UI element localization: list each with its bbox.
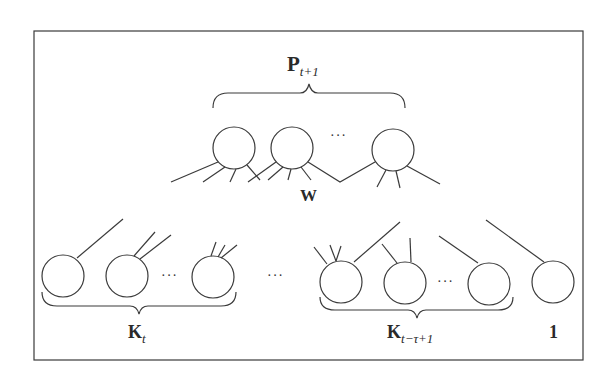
top-ellipsis: ··· [330,128,347,144]
top-node-3 [372,129,414,171]
top-nodes [213,127,414,171]
top-group-label: Pt+1 [287,52,319,77]
bottom-left-connections [77,219,237,259]
bias-label: 1 [549,322,558,343]
bottom-right-nodes [320,261,510,305]
top-group-brace [213,84,405,108]
bias-connection [486,220,544,262]
bias-node [532,261,574,303]
top-node-2 [271,127,313,169]
bottom-left-nodes [42,255,234,298]
middle-ellipsis: ··· [267,268,284,284]
right-group-label: Kt−τ+1 [387,322,433,343]
left-ellipsis: ··· [161,268,178,284]
weights-label: W [300,186,317,206]
bottom-right-connections [314,222,478,264]
left-group-label: Kt [128,322,146,343]
right-ellipsis: ··· [437,274,454,290]
top-node-1 [213,127,255,169]
